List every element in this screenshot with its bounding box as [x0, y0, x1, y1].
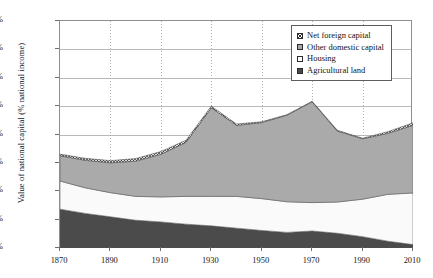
y-axis-tick-label: 100%: [0, 214, 3, 223]
y-axis-tick-label: 0%: [0, 242, 3, 251]
x-axis-tick-mark: [362, 247, 363, 251]
x-axis-tick-mark: [59, 247, 60, 251]
x-axis-tick-label: 1890: [101, 256, 118, 265]
chart-figure: Value of national capital (% national in…: [0, 0, 433, 278]
legend-item-label: Other domestic capital: [307, 42, 384, 54]
legend-item: Other domestic capital: [297, 42, 384, 54]
y-axis-tick-label: 500%: [0, 100, 3, 109]
x-axis-tick-label: 1990: [353, 256, 370, 265]
x-axis-tick-mark: [210, 247, 211, 251]
crosshatch-swatch-icon: [297, 33, 303, 39]
x-axis-tick-mark: [109, 247, 110, 251]
legend-item: Net foreign capital: [297, 30, 384, 42]
chart-legend: Net foreign capitalOther domestic capita…: [291, 25, 392, 81]
y-axis-tick-label: 700%: [0, 43, 3, 52]
area-series-other-domestic-capital: [60, 102, 413, 203]
gray-swatch-icon: [297, 44, 303, 50]
x-axis-tick-label: 2010: [404, 256, 421, 265]
x-axis-tick-mark: [261, 247, 262, 251]
x-axis-tick-labels: 18701890191019301950197019902010: [59, 247, 412, 271]
x-axis-tick-mark: [311, 247, 312, 251]
x-axis-tick-label: 1910: [152, 256, 169, 265]
x-axis-tick-label: 1950: [252, 256, 269, 265]
y-axis-tick-label: 800%: [0, 15, 3, 24]
legend-item: Agricultural land: [297, 65, 384, 77]
legend-item-label: Housing: [307, 53, 336, 65]
y-axis-tick-label: 600%: [0, 72, 3, 81]
dark-swatch-icon: [297, 68, 303, 74]
y-axis-tick-label: 300%: [0, 157, 3, 166]
legend-item-label: Net foreign capital: [307, 30, 371, 42]
y-axis-tick-label: 200%: [0, 185, 3, 194]
x-axis-tick-mark: [412, 247, 413, 251]
legend-item: Housing: [297, 53, 384, 65]
x-axis-tick-label: 1970: [303, 256, 320, 265]
y-axis-title: Value of national capital (% national in…: [16, 8, 26, 238]
y-axis-tick-label: 400%: [0, 129, 3, 138]
x-axis-tick-label: 1930: [202, 256, 219, 265]
x-axis-tick-mark: [160, 247, 161, 251]
x-axis-tick-label: 1870: [51, 256, 68, 265]
white-swatch-icon: [297, 56, 303, 62]
legend-item-label: Agricultural land: [307, 65, 365, 77]
